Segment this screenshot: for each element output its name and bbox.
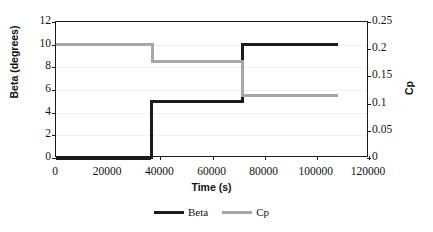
x-axis-tick-label: 20000 [93,166,122,178]
x-axis-tick-label: 0 [52,166,58,178]
y-axis-tick-labels: 024681012 [18,0,51,232]
x-axis-tick-mark [160,156,161,160]
y-axis-tick-label: 8 [45,60,51,72]
y-axis-tick-mark [52,135,56,136]
chart-figure: 024681012 00.050.10.150.20.25 0200004000… [0,0,433,232]
y-axis-tick-mark [52,90,56,91]
x-axis-tick-label: 120000 [351,166,386,178]
y-axis-title: Beta (degrees) [8,20,20,104]
legend-item: Beta [154,207,208,218]
y-axis-tick-label: 2 [45,128,51,140]
x-axis-tick-mark [265,156,266,160]
gridline [56,67,367,68]
series-riser-beta [150,100,153,160]
y2-axis-tick-label: 0.1 [372,97,386,109]
series-segment-beta [56,157,151,160]
gridline [56,135,367,136]
x-axis-title: Time (s) [55,181,368,193]
series-segment-cp [153,60,243,63]
y2-axis-tick-mark [367,104,371,105]
x-axis-tick-label: 100000 [299,166,334,178]
y-axis-tick-label: 4 [45,106,51,118]
x-axis-tick-mark [317,156,318,160]
x-axis-tick-mark [369,156,370,160]
y2-axis-tick-mark [367,131,371,132]
y2-axis-tick-label: 0.2 [372,42,386,54]
chart-legend: BetaCp [55,207,368,218]
y2-axis-tick-mark [367,76,371,77]
y2-axis-tick-mark [367,22,371,23]
legend-swatch-icon [154,211,184,214]
y2-axis-tick-label: 0.05 [372,124,392,136]
legend-item: Cp [222,207,269,218]
legend-label: Beta [188,207,208,218]
series-segment-cp [243,94,338,97]
y2-axis-title: Cp [403,71,415,105]
legend-label: Cp [256,207,269,218]
x-axis-tick-label: 40000 [145,166,174,178]
y-axis-tick-mark [52,113,56,114]
y2-axis-tick-label: 0 [372,151,378,163]
y2-axis-tick-label: 0.25 [372,15,392,27]
y-axis-tick-label: 0 [45,151,51,163]
legend-swatch-icon [222,211,252,214]
series-segment-cp [56,43,153,46]
y2-axis-tick-label: 0.15 [372,69,392,81]
series-riser-cp [241,60,244,97]
gridline [56,113,367,114]
gridline [56,90,367,91]
y-axis-tick-label: 6 [45,83,51,95]
y-axis-tick-mark [52,67,56,68]
x-axis-tick-label: 80000 [249,166,278,178]
plot-area [55,21,368,157]
series-segment-beta [151,100,242,103]
y2-axis-tick-mark [367,49,371,50]
x-axis-tick-label: 60000 [197,166,226,178]
x-axis-tick-mark [213,156,214,160]
series-segment-beta [243,43,338,46]
y2-axis-tick-labels: 00.050.10.150.20.25 [372,0,412,232]
y-axis-tick-mark [52,22,56,23]
y-axis-tick-label: 10 [40,38,52,50]
y-axis-tick-label: 12 [40,15,52,27]
